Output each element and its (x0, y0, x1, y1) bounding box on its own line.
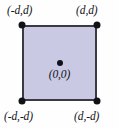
coordinate-label-center: (0,0) (0, 68, 119, 81)
vertex-point-bottom-left-icon (19, 98, 26, 105)
coordinate-label-bottom-right: (d,-d) (74, 110, 99, 123)
coordinate-square-diagram: (-d,d) (d,d) (0,0) (-d,-d) (d,-d) (0, 0, 119, 129)
coordinate-label-top-right: (d,d) (76, 4, 98, 17)
vertex-point-bottom-right-icon (94, 98, 101, 105)
center-point-icon (57, 60, 63, 66)
coordinate-label-top-left: (-d,d) (7, 4, 32, 17)
coordinate-label-bottom-left: (-d,-d) (4, 110, 33, 123)
vertex-point-top-left-icon (19, 22, 26, 29)
vertex-point-top-right-icon (94, 22, 101, 29)
